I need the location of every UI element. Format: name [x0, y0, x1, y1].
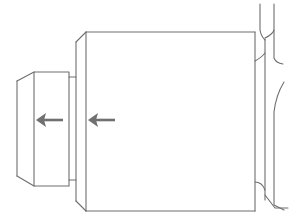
arrow-left-1: [36, 113, 63, 127]
cap-top-chamfer: [17, 72, 34, 81]
fork-left-prong: [260, 4, 265, 40]
arrow-left-2: [88, 113, 115, 127]
upper-fillet: [255, 53, 265, 61]
cap-box: [34, 72, 69, 186]
diagram-canvas: [0, 0, 297, 221]
outer-lower-profile: [274, 82, 284, 210]
cap-bottom-chamfer: [17, 176, 34, 186]
body-top-chamfer: [76, 32, 86, 42]
small-cap: [17, 72, 69, 186]
lower-fillet: [255, 182, 265, 190]
fork-right-prong-top: [265, 4, 274, 38]
body-bottom-chamfer: [76, 201, 86, 211]
outer-upper-curve: [274, 30, 283, 64]
right-mating-part: [255, 4, 288, 210]
diagram-svg: [0, 0, 297, 221]
main-body: [76, 32, 255, 211]
neck: [69, 77, 76, 180]
